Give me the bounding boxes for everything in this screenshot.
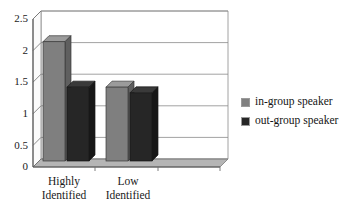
legend-swatch-icon [241, 117, 250, 126]
x-tick-label-line1: Highly [32, 175, 96, 189]
x-tick-label-highly-identified: Highly Identified [32, 175, 96, 202]
x-tick-label-line2: Identified [96, 189, 160, 203]
legend-item-outgroup-speaker: out-group speaker [241, 113, 338, 129]
y-tick-label-1.5: 1.5 [2, 76, 28, 87]
x-tick-label-line1: Low [96, 175, 160, 189]
plot-left-wall [33, 11, 41, 167]
x-tick-label-low-identified: Low Identified [96, 175, 160, 202]
legend-item-ingroup-speaker: in-group speaker [241, 94, 338, 110]
bar-chart: 2.5 2 1.5 1 0.5 0 Highly Identified Low … [0, 0, 354, 214]
legend: in-group speaker out-group speaker [241, 94, 338, 132]
legend-label: out-group speaker [255, 115, 338, 127]
y-tick-label-2: 2 [2, 45, 28, 56]
x-tick-label-line2: Identified [32, 189, 96, 203]
legend-swatch-icon [241, 98, 250, 107]
y-tick-label-0: 0 [2, 161, 28, 172]
bar-outgroup-low [130, 87, 158, 161]
y-tick-label-1: 1 [2, 108, 28, 119]
y-tick-label-2.5: 2.5 [2, 13, 28, 24]
bar-outgroup-highly [67, 81, 95, 161]
x-axis-line [33, 167, 220, 171]
legend-label: in-group speaker [255, 96, 333, 108]
y-tick-label-0.5: 0.5 [2, 140, 28, 151]
